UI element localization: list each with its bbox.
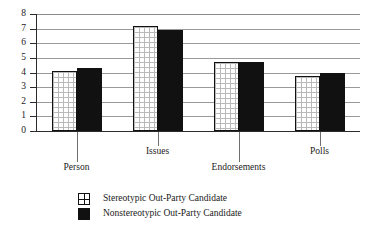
legend-swatch-nonstereotypic-icon [78,208,90,220]
bar [77,68,102,131]
gridline [36,43,360,44]
y-axis-tick-label: 6 [4,38,26,48]
plot-area [36,14,360,131]
y-axis-tick-label: 1 [4,111,26,121]
x-axis-category-label: Endorsements [212,162,266,172]
bar [214,62,239,131]
legend-swatch-stereotypic-icon [78,193,90,205]
chart-legend: Stereotypic Out-Party Candidate Nonstere… [78,191,242,221]
x-axis-tick-mark [158,132,159,146]
x-axis-line [36,131,360,132]
legend-item-stereotypic: Stereotypic Out-Party Candidate [78,191,242,206]
bar [239,62,264,131]
y-axis-tick-label: 8 [4,9,26,19]
x-axis-category-label: Person [64,162,90,172]
gridline [36,58,360,59]
y-axis-tick-label: 4 [4,68,26,78]
y-axis-tick-label: 5 [4,53,26,63]
bar [158,30,183,131]
bar [52,71,77,131]
y-axis-spine [36,14,37,132]
bar [133,26,158,131]
x-axis-tick-mark [239,132,240,162]
legend-item-nonstereotypic: Nonstereotypic Out-Party Candidate [78,206,242,221]
y-axis-tick-label: 3 [4,82,26,92]
x-axis-category-label: Issues [146,146,169,156]
gridline [36,14,360,15]
x-axis-tick-mark [77,132,78,162]
legend-label-stereotypic: Stereotypic Out-Party Candidate [103,193,227,204]
x-axis-category-label: Polls [310,146,329,156]
y-axis-tick-label: 0 [4,126,26,136]
bar [320,73,345,131]
x-axis-tick-mark [320,132,321,146]
gridline [36,29,360,30]
y-axis-tick-label: 7 [4,24,26,34]
legend-label-nonstereotypic: Nonstereotypic Out-Party Candidate [103,208,242,219]
bar [295,76,320,131]
y-axis-tick-label: 2 [4,97,26,107]
bar-chart-figure: 876543210 PersonIssuesEndorsementsPolls … [0,0,374,238]
